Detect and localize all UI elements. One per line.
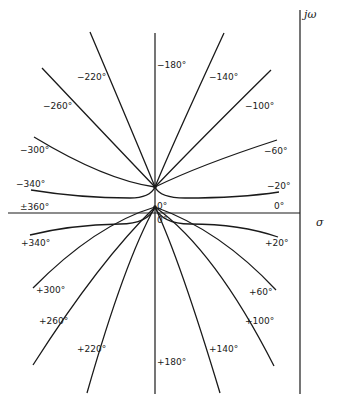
label-plus-300: +300° (36, 285, 65, 295)
label-minus-340: −340° (16, 179, 45, 189)
curve-minus-100 (155, 70, 271, 187)
label-plus-180: +180° (157, 357, 186, 367)
label-minus-260: −260° (43, 101, 72, 111)
label-minus-20: −20° (267, 181, 291, 191)
label-minus-60: −60° (264, 146, 288, 156)
label-minus-100: −100° (245, 101, 274, 111)
phase-angle-contour-diagram: jω σ −180° −140° −100° −60° −20° 0° −220… (0, 0, 338, 400)
label-zero-right: 0° (274, 201, 284, 211)
label-minus-220: −220° (77, 72, 106, 82)
curve-minus-220 (90, 32, 155, 187)
label-zero-lower-center: 0° (157, 215, 167, 225)
label-plus-220: +220° (77, 344, 106, 354)
label-plus-100: +100° (245, 316, 274, 326)
curve-minus-20 (155, 187, 279, 198)
label-minus-180: −180° (157, 60, 186, 70)
imag-axis-label: jω (301, 8, 316, 21)
pole-upper (153, 185, 157, 189)
label-plus-140: +140° (209, 344, 238, 354)
label-plus-20: +20° (265, 238, 289, 248)
curve-plus-60 (155, 207, 276, 290)
curve-minus-260 (42, 68, 155, 187)
curve-minus-340 (31, 187, 155, 198)
label-zero-upper-center: 0° (157, 201, 167, 211)
label-plus-260: +260° (39, 316, 68, 326)
label-plus-60: +60° (249, 287, 273, 297)
curve-minus-60 (155, 140, 277, 187)
label-plus-minus-360: ±360° (20, 202, 49, 212)
label-plus-340: +340° (21, 238, 50, 248)
label-minus-140: −140° (209, 72, 238, 82)
real-axis-label: σ (316, 216, 324, 229)
curve-minus-140 (155, 33, 224, 187)
label-minus-300: −300° (20, 145, 49, 155)
